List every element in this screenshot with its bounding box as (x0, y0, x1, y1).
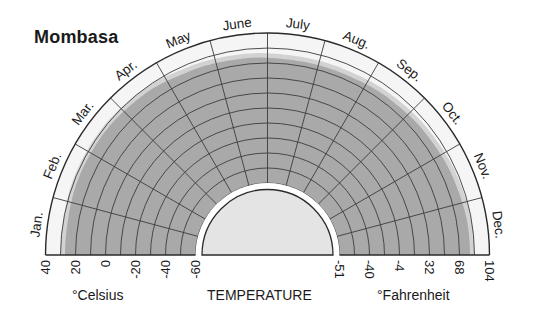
celsius-tick-label: -60 (188, 260, 203, 279)
fahrenheit-unit-label: °Fahrenheit (377, 287, 450, 303)
celsius-tick-label: -20 (128, 260, 143, 279)
celsius-tick-label: 20 (68, 260, 83, 274)
fahrenheit-tick-label: -40 (362, 260, 377, 279)
fahrenheit-tick-label: 32 (422, 260, 437, 274)
chart-title: Mombasa (34, 27, 118, 48)
fahrenheit-tick-label: 104 (482, 260, 497, 282)
month-label: July (285, 15, 311, 33)
celsius-unit-label: °Celsius (72, 287, 124, 303)
celsius-tick-label: -40 (158, 260, 173, 279)
fahrenheit-tick-label: 68 (452, 260, 467, 274)
temperature-axis-label: TEMPERATURE (207, 287, 312, 303)
month-label: Dec. (489, 210, 507, 239)
month-label: June (222, 15, 253, 34)
month-label: Jan. (27, 211, 45, 238)
temperature-radial-chart: Jan.Feb.Mar.Apr.MayJuneJulyAug.Sep.Oct.N… (0, 0, 538, 323)
fahrenheit-tick-label: -4 (392, 260, 407, 272)
fahrenheit-tick-label: -51 (332, 260, 347, 279)
celsius-tick-label: 40 (38, 260, 53, 274)
celsius-tick-label: 0 (98, 260, 113, 267)
